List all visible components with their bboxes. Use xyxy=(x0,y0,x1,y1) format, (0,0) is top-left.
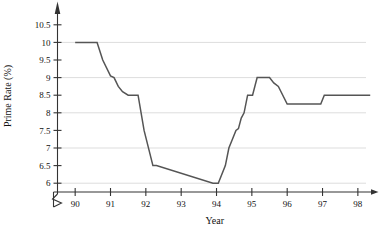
chart-canvas: 66.577.588.599.51010.5 90919293949596979… xyxy=(0,0,384,230)
x-tick-label: 90 xyxy=(71,199,81,209)
y-axis-arrowhead xyxy=(55,2,61,15)
y-tick-label: 6.5 xyxy=(39,161,51,171)
y-tick-label: 6 xyxy=(46,178,51,188)
y-tick-label: 8.5 xyxy=(39,90,51,100)
x-tick-label: 98 xyxy=(353,199,363,209)
y-tick-label: 7 xyxy=(46,143,51,153)
x-tick-label: 91 xyxy=(106,199,115,209)
x-tick-label: 92 xyxy=(141,199,150,209)
y-axis xyxy=(53,2,62,208)
x-tick-label: 97 xyxy=(318,199,328,209)
y-tick-label: 9 xyxy=(46,73,51,83)
x-tick-label: 94 xyxy=(212,199,222,209)
y-tick-label: 7.5 xyxy=(39,126,51,136)
x-tick-label: 95 xyxy=(247,199,257,209)
y-tick-labels-group: 66.577.588.599.51010.5 xyxy=(35,20,51,188)
y-tick-label: 8 xyxy=(46,108,51,118)
x-tick-label: 96 xyxy=(283,199,293,209)
x-axis-arrowhead xyxy=(371,189,379,195)
y-tick-label: 9.5 xyxy=(39,55,51,65)
y-axis-title: Prime Rate (%) xyxy=(2,65,14,127)
x-tick-labels-group: 909192939495969798 xyxy=(71,199,363,209)
x-axis-title: Year xyxy=(206,215,225,226)
prime-rate-line-chart: 66.577.588.599.51010.5 90919293949596979… xyxy=(0,0,384,230)
y-tick-label: 10 xyxy=(42,38,52,48)
y-tick-label: 10.5 xyxy=(35,20,51,30)
x-tick-label: 93 xyxy=(177,199,187,209)
